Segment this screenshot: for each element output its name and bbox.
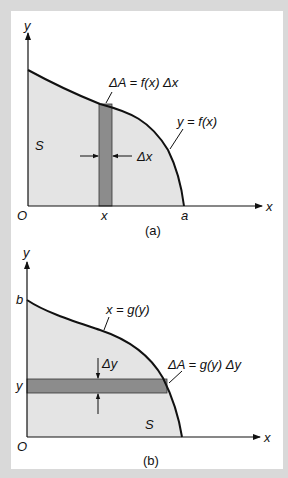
curve-label-b: x = g(y)	[105, 302, 150, 317]
caption-b: (b)	[143, 453, 159, 468]
strip-y-label: y	[15, 378, 24, 393]
vertical-strip	[99, 104, 112, 206]
caption-a: (a)	[145, 223, 161, 238]
pointer-curve-a	[170, 129, 183, 149]
endpoint-a-label: a	[181, 208, 188, 223]
pointer-area-b	[169, 371, 182, 383]
origin-label-a: O	[17, 208, 27, 223]
figure-a: y x O S x a ΔA = f(x) Δx y = f(x) Δx (a)	[17, 18, 273, 238]
area-diagram: y x O S x a ΔA = f(x) Δx y = f(x) Δx (a)…	[0, 0, 288, 478]
area-element-label-a: ΔA = f(x) Δx	[108, 75, 179, 90]
area-element-label-b: ΔA = g(y) Δy	[167, 357, 242, 372]
x-axis-label-b: x	[263, 430, 271, 445]
y-axis-label-b: y	[22, 245, 31, 260]
x-axis-label-a: x	[265, 199, 273, 214]
pointer-curve-b	[104, 317, 109, 330]
curve-label-a: y = f(x)	[176, 114, 217, 129]
endpoint-b-label: b	[16, 292, 23, 307]
region-label-b: S	[145, 417, 154, 432]
origin-label-b: O	[17, 439, 27, 454]
dy-label: Δy	[101, 356, 119, 371]
figure-b: y x O S y b x = g(y) ΔA = g(y) Δy Δy (b)	[15, 245, 271, 468]
strip-x-label: x	[100, 208, 108, 223]
region-label-a: S	[35, 138, 44, 153]
pointer-area-a	[106, 92, 112, 103]
y-axis-label-a: y	[23, 18, 32, 33]
horizontal-strip	[27, 379, 167, 393]
dx-label: Δx	[136, 149, 153, 164]
